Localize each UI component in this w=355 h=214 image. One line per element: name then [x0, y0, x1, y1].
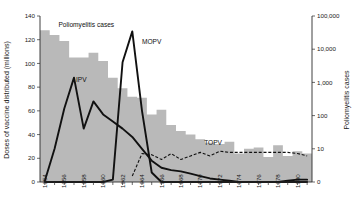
left-tick-label: 140: [25, 12, 36, 19]
x-tick-label: 1968: [177, 174, 184, 188]
x-tick-label: 1970: [196, 174, 203, 188]
x-tick-label: 1972: [216, 174, 223, 188]
x-tick-label: 1960: [99, 174, 106, 188]
right-axis-title: Poliomyelitis cases: [343, 70, 351, 130]
left-tick-label: 120: [25, 36, 36, 43]
left-tick-label: 40: [28, 131, 35, 138]
left-tick-label: 60: [28, 107, 35, 114]
x-tick-label: 1954: [41, 174, 48, 188]
series-annotation-ipv: IPV: [76, 76, 87, 83]
x-tick-label: 1976: [255, 174, 262, 188]
x-tick-label: 1978: [274, 174, 281, 188]
polio-vaccine-chart: 020406080100120140 0101001,00010,000100,…: [0, 0, 355, 214]
right-tick-label: 1,000: [317, 79, 333, 86]
x-tick-label: 1974: [235, 174, 242, 188]
x-tick-label: 1962: [119, 174, 126, 188]
left-tick-label: 20: [28, 154, 35, 161]
chart-container: 020406080100120140 0101001,00010,000100,…: [0, 0, 355, 214]
right-tick-label: 10: [317, 145, 324, 152]
series-annotation-poliomyelitis-cases: Poliomyelitis cases: [58, 21, 114, 29]
series-annotation-mopv: MOPV: [142, 38, 162, 45]
right-tick-label: 100,000: [317, 12, 340, 19]
left-tick-label: 80: [28, 83, 35, 90]
x-tick-label: 1980: [294, 174, 301, 188]
right-tick-label: 10,000: [317, 45, 336, 52]
left-tick-label: 0: [32, 178, 36, 185]
x-tick-label: 1958: [80, 174, 87, 188]
left-axis-title: Doses of vaccine distributed (millions): [3, 41, 11, 159]
x-tick-label: 1966: [158, 174, 165, 188]
left-tick-label: 100: [25, 60, 36, 67]
right-tick-label: 100: [317, 112, 328, 119]
series-annotation-topv: TOPV: [204, 139, 222, 146]
x-tick-label: 1956: [60, 174, 67, 188]
right-tick-label: 0: [317, 178, 321, 185]
x-tick-label: 1964: [138, 174, 145, 188]
